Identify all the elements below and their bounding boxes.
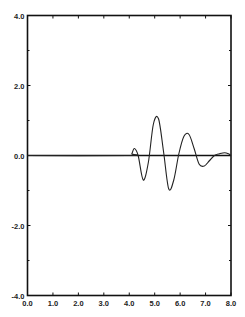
x-tick-label: 7.0	[200, 299, 210, 308]
x-tick-label: 5.0	[149, 299, 159, 308]
x-tick-label: 4.0	[124, 299, 134, 308]
y-tick-label: -4.0	[12, 292, 25, 301]
chart: 0.01.02.03.04.05.06.07.08.0 4.02.00.0-2.…	[0, 0, 245, 317]
y-tick-label: 0.0	[14, 152, 24, 161]
x-tick-label: 6.0	[175, 299, 185, 308]
y-tick-label: 2.0	[14, 82, 24, 91]
waveform-line	[28, 116, 232, 190]
x-axis-ticks: 0.01.02.03.04.05.06.07.08.0	[22, 16, 236, 308]
x-tick-label: 8.0	[226, 299, 236, 308]
x-tick-label: 1.0	[48, 299, 58, 308]
x-tick-label: 3.0	[99, 299, 109, 308]
x-tick-label: 2.0	[73, 299, 83, 308]
y-tick-label: 4.0	[14, 12, 24, 21]
y-tick-label: -2.0	[12, 222, 25, 231]
